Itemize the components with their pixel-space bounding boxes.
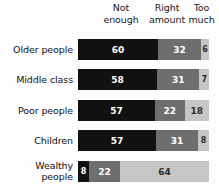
chart-row: Wealthy people 8 22 64 [0,161,219,183]
legend-too-much-line1: Too [194,2,210,13]
segment-right-amount: 22 [155,100,185,121]
segment-too-much: 8 [198,130,209,151]
segment-right-amount: 22 [89,161,120,182]
bar-track: 57 22 18 [78,100,209,121]
segment-not-enough: 58 [78,69,157,90]
chart-row: Children 57 31 8 [0,130,219,152]
segment-not-enough: 60 [78,39,158,60]
bar-track: 58 31 7 [78,69,209,90]
row-label-line1: Wealthy [35,160,73,171]
bar-track: 57 31 8 [78,130,209,151]
legend-not-enough-line1: Not [113,2,129,13]
row-label-line1: Children [34,135,73,146]
row-label-line1: Poor people [18,105,73,116]
stacked-bar-chart: Not enough Right amount Too much Older p… [0,0,219,192]
segment-not-enough: 57 [78,130,156,151]
legend-not-enough-line2: enough [97,14,145,26]
row-label-line1: Older people [13,44,73,55]
legend-too-much-line2: much [184,14,219,26]
row-label: Poor people [0,105,73,116]
chart-row: Older people 60 32 6 [0,39,219,61]
segment-not-enough: 8 [78,161,89,182]
row-label-line1: Middle class [16,74,73,85]
legend-not-enough: Not enough [97,2,145,25]
legend-right-amount-line1: Right [155,2,180,13]
segment-too-much: 6 [201,39,209,60]
segment-right-amount: 31 [156,130,198,151]
row-label: Older people [0,44,73,55]
row-label-line2: people [41,171,73,182]
row-label: Wealthy people [0,160,73,182]
row-label: Middle class [0,74,73,85]
segment-too-much: 18 [185,100,209,121]
segment-right-amount: 32 [158,39,201,60]
segment-too-much: 7 [199,69,209,90]
chart-row: Middle class 58 31 7 [0,69,219,91]
legend-too-much: Too much [184,2,219,25]
segment-right-amount: 31 [157,69,199,90]
bar-track: 60 32 6 [78,39,209,60]
bar-track: 8 22 64 [78,161,209,182]
segment-not-enough: 57 [78,100,155,121]
chart-row: Poor people 57 22 18 [0,100,219,122]
row-label: Children [0,135,73,146]
chart-legend-headers: Not enough Right amount Too much [0,2,219,30]
segment-too-much: 64 [120,161,209,182]
